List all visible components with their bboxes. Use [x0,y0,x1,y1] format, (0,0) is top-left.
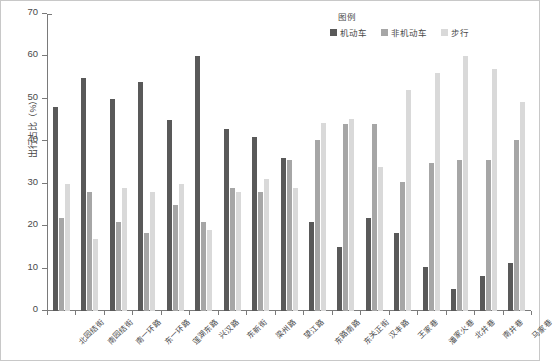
bar [429,163,434,312]
x-tick-label: 兴汉路 [216,316,241,341]
bar-group [480,14,497,311]
legend-label: 非机动车 [391,26,427,38]
y-tick: 20 [42,225,47,226]
x-tick [189,311,190,315]
x-tick [503,311,504,315]
legend-swatch-icon [441,29,448,36]
y-tick-label: 70 [27,6,38,17]
bar [207,230,212,311]
bar [451,289,456,311]
bar [337,247,342,311]
y-tick-label: 20 [27,218,38,229]
bar [224,129,229,311]
x-tick-label: 东一环路 [161,316,191,346]
legend-item[interactable]: 非机动车 [381,26,427,38]
y-tick: 50 [42,98,47,99]
x-tick [47,311,48,315]
bar [435,73,440,311]
x-tick [218,311,219,315]
bar [281,158,286,311]
y-axis-title: 出行占比（%） [26,67,39,187]
bar [492,69,497,311]
bar-group [81,14,98,311]
bar [520,102,525,311]
x-tick-label: 王家巷 [415,316,440,341]
y-tick: 10 [42,268,47,269]
x-tick-label: 北井巷 [472,316,497,341]
legend-swatch-icon [330,29,337,36]
x-tick-label: 南井巷 [500,316,525,341]
bar [81,78,86,311]
x-tick [531,311,532,315]
x-tick [246,311,247,315]
bar [287,160,292,311]
x-tick [360,311,361,315]
x-tick [389,311,390,315]
legend-item[interactable]: 机动车 [330,26,367,38]
bar [195,56,200,311]
y-tick-label: 10 [27,261,38,272]
x-tick-label: 南园结街 [104,316,134,346]
bar [423,267,428,311]
legend-label: 机动车 [340,26,367,38]
bar-group [394,14,411,311]
bar [349,119,354,311]
legend-item[interactable]: 步行 [441,26,469,38]
x-tick [332,311,333,315]
legend-title: 图例 [330,10,530,22]
bar-group [281,14,298,311]
bar [463,56,468,311]
y-tick-label: 30 [27,176,38,187]
legend-items: 机动车非机动车步行 [330,26,530,38]
y-tick-label: 40 [27,133,38,144]
bar-group [508,14,525,311]
x-tick-label: 南一环路 [133,316,163,346]
bar [508,263,513,311]
bar-group [138,14,155,311]
bar [264,179,269,311]
bar-group [167,14,184,311]
bar-group [110,14,127,311]
legend-label: 步行 [451,26,469,38]
x-tick [104,311,105,315]
bar [59,218,64,311]
bar [480,276,485,311]
bar [144,233,149,311]
x-tick [132,311,133,315]
y-tick: 70 [42,13,47,14]
bar [173,205,178,311]
y-tick: 30 [42,183,47,184]
bar-group [451,14,468,311]
x-tick [446,311,447,315]
x-tick-label: 马家巷 [529,316,554,341]
bar [179,184,184,311]
bar [343,124,348,311]
bar [201,222,206,311]
bar [53,107,58,311]
bar [378,167,383,311]
bar [258,192,263,311]
bar [167,120,172,311]
bar [110,99,115,311]
bar [293,188,298,311]
bar-group [195,14,212,311]
bar [366,218,371,311]
x-tick [474,311,475,315]
bar [315,140,320,311]
bar-group [309,14,326,311]
bar [372,124,377,311]
bar [236,192,241,311]
y-tick-label: 50 [27,91,38,102]
y-tick: 60 [42,55,47,56]
bar [65,184,70,311]
x-tick [161,311,162,315]
bar-group [366,14,383,311]
bar [400,182,405,311]
bar-group [423,14,440,311]
bar [514,140,519,311]
bar [116,222,121,311]
x-tick-label: 莲湖东路 [189,316,219,346]
x-tick-label: 汉丰路 [386,316,411,341]
bar [394,233,399,311]
